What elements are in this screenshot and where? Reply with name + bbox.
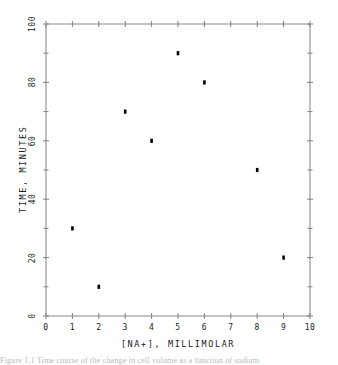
x-tick-label: 9 xyxy=(274,324,294,332)
data-point-group xyxy=(71,51,285,289)
scatter-plot xyxy=(0,0,338,365)
x-tick-label: 7 xyxy=(221,324,241,332)
x-tick-label: 4 xyxy=(142,324,162,332)
data-point xyxy=(150,139,153,143)
x-axis-title: [NA+], MILLIMOLAR xyxy=(46,340,310,349)
data-point xyxy=(203,80,206,84)
data-point xyxy=(98,285,101,289)
x-tick-label: 3 xyxy=(115,324,135,332)
x-tick-label: 0 xyxy=(36,324,56,332)
axes-frame xyxy=(46,24,310,316)
y-tick-label: 20 xyxy=(29,247,39,269)
data-point xyxy=(177,51,180,55)
data-point xyxy=(124,110,127,114)
x-tick-label: 10 xyxy=(300,324,320,332)
x-tick-label: 2 xyxy=(89,324,109,332)
x-tick-label: 1 xyxy=(62,324,82,332)
figure-container: 020406080100 012345678910 TIME, MINUTES … xyxy=(0,0,338,365)
data-point xyxy=(282,256,285,260)
data-point xyxy=(71,226,74,230)
tick-marks xyxy=(43,21,313,319)
y-tick-label: 40 xyxy=(29,188,39,210)
x-tick-label: 6 xyxy=(194,324,214,332)
x-tick-label: 5 xyxy=(168,324,188,332)
y-tick-label: 80 xyxy=(29,71,39,93)
y-axis-title: TIME, MINUTES xyxy=(19,104,28,234)
y-tick-label: 60 xyxy=(29,130,39,152)
data-point xyxy=(256,168,259,172)
y-tick-label: 100 xyxy=(29,13,39,35)
figure-caption: Figure 1.1 Time course of the change in … xyxy=(0,356,338,365)
x-tick-label: 8 xyxy=(247,324,267,332)
